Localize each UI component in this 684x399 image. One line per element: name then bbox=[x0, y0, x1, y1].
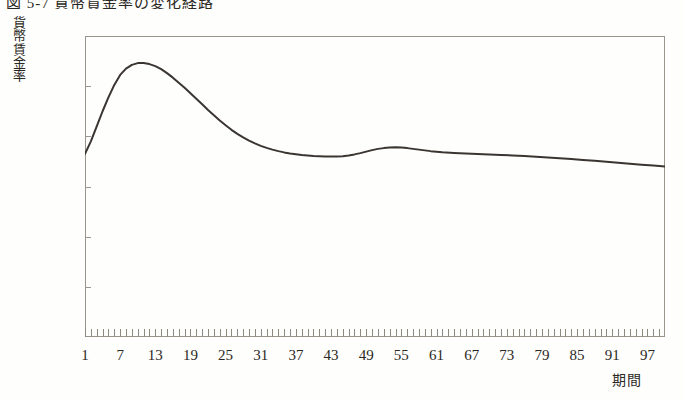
x-minor-tick bbox=[155, 329, 156, 337]
x-minor-tick bbox=[349, 329, 350, 337]
x-minor-tick bbox=[97, 329, 98, 337]
x-tick-label-25: 25 bbox=[209, 347, 243, 364]
x-minor-tick bbox=[384, 329, 385, 337]
x-minor-tick bbox=[478, 329, 479, 337]
x-tick-label-97: 97 bbox=[630, 347, 664, 364]
x-minor-tick bbox=[565, 329, 566, 337]
x-minor-tick bbox=[255, 329, 256, 337]
x-minor-tick bbox=[548, 329, 549, 337]
x-minor-tick bbox=[454, 329, 455, 337]
x-minor-tick bbox=[636, 329, 637, 337]
x-minor-tick bbox=[577, 329, 578, 337]
x-minor-tick bbox=[284, 329, 285, 337]
x-minor-tick bbox=[460, 329, 461, 337]
x-minor-tick bbox=[85, 329, 86, 337]
x-minor-tick bbox=[290, 329, 291, 337]
x-minor-tick bbox=[138, 329, 139, 337]
x-minor-tick bbox=[378, 329, 379, 337]
x-minor-tick bbox=[524, 329, 525, 337]
x-minor-tick bbox=[624, 329, 625, 337]
x-minor-tick bbox=[571, 329, 572, 337]
x-minor-tick bbox=[448, 329, 449, 337]
x-tick-label-85: 85 bbox=[560, 347, 594, 364]
x-minor-tick bbox=[114, 329, 115, 337]
y-axis-caption-char-0: 貨 bbox=[8, 16, 30, 29]
x-minor-tick bbox=[144, 329, 145, 337]
y-axis-caption-char-2: 賃 bbox=[8, 43, 30, 56]
figure-title: 図 5-7 貨幣賃金率の変化経路 bbox=[6, 0, 346, 9]
x-minor-tick bbox=[606, 329, 607, 337]
x-minor-tick bbox=[612, 329, 613, 337]
x-minor-tick bbox=[302, 329, 303, 337]
x-tick-label-43: 43 bbox=[314, 347, 348, 364]
x-minor-tick bbox=[149, 329, 150, 337]
x-minor-tick bbox=[437, 329, 438, 337]
x-minor-tick bbox=[331, 329, 332, 337]
x-tick-label-55: 55 bbox=[384, 347, 418, 364]
y-tick-mark-10 bbox=[85, 86, 91, 87]
x-tick-label-61: 61 bbox=[420, 347, 454, 364]
x-minor-tick bbox=[595, 329, 596, 337]
x-minor-tick bbox=[495, 329, 496, 337]
y-tick-mark-2 bbox=[85, 287, 91, 288]
x-tick-label-1: 1 bbox=[68, 347, 102, 364]
x-minor-tick bbox=[407, 329, 408, 337]
x-minor-tick bbox=[653, 329, 654, 337]
x-minor-tick bbox=[325, 329, 326, 337]
line-series-svg bbox=[85, 36, 665, 337]
x-minor-tick bbox=[372, 329, 373, 337]
x-minor-tick bbox=[560, 329, 561, 337]
x-minor-tick bbox=[91, 329, 92, 337]
y-tick-mark-12 bbox=[85, 36, 91, 37]
x-minor-tick bbox=[396, 329, 397, 337]
x-minor-tick bbox=[185, 329, 186, 337]
x-axis-minor-ticks bbox=[85, 329, 665, 337]
x-minor-tick bbox=[401, 329, 402, 337]
x-minor-tick bbox=[167, 329, 168, 337]
x-minor-tick bbox=[630, 329, 631, 337]
x-minor-tick bbox=[413, 329, 414, 337]
x-tick-label-79: 79 bbox=[525, 347, 559, 364]
x-tick-label-73: 73 bbox=[490, 347, 524, 364]
x-tick-label-67: 67 bbox=[455, 347, 489, 364]
x-tick-label-7: 7 bbox=[103, 347, 137, 364]
y-tick-mark-4 bbox=[85, 237, 91, 238]
x-minor-tick bbox=[202, 329, 203, 337]
x-minor-tick bbox=[296, 329, 297, 337]
x-minor-tick bbox=[519, 329, 520, 337]
x-minor-tick bbox=[226, 329, 227, 337]
x-minor-tick bbox=[267, 329, 268, 337]
x-minor-tick bbox=[354, 329, 355, 337]
x-minor-tick bbox=[190, 329, 191, 337]
wage-rate-curve bbox=[85, 63, 665, 166]
x-minor-tick bbox=[261, 329, 262, 337]
x-minor-tick bbox=[103, 329, 104, 337]
x-minor-tick bbox=[161, 329, 162, 337]
x-minor-tick bbox=[132, 329, 133, 337]
x-minor-tick bbox=[554, 329, 555, 337]
x-minor-tick bbox=[472, 329, 473, 337]
x-minor-tick bbox=[489, 329, 490, 337]
x-minor-tick bbox=[513, 329, 514, 337]
x-minor-tick bbox=[536, 329, 537, 337]
x-minor-tick bbox=[425, 329, 426, 337]
x-minor-tick bbox=[431, 329, 432, 337]
y-axis-caption-char-3: 金 bbox=[8, 56, 30, 69]
figure-container: 図 5-7 貨幣賃金率の変化経路 貨幣賃金率 期間 12108642017131… bbox=[0, 0, 684, 399]
x-minor-tick bbox=[442, 329, 443, 337]
x-minor-tick bbox=[337, 329, 338, 337]
x-minor-tick bbox=[542, 329, 543, 337]
x-minor-tick bbox=[313, 329, 314, 337]
x-minor-tick bbox=[319, 329, 320, 337]
x-minor-tick bbox=[278, 329, 279, 337]
x-minor-tick bbox=[659, 329, 660, 337]
x-minor-tick bbox=[220, 329, 221, 337]
x-minor-tick bbox=[530, 329, 531, 337]
x-tick-label-49: 49 bbox=[349, 347, 383, 364]
x-minor-tick bbox=[231, 329, 232, 337]
x-minor-tick bbox=[343, 329, 344, 337]
x-minor-tick bbox=[466, 329, 467, 337]
y-tick-mark-6 bbox=[85, 187, 91, 188]
x-minor-tick bbox=[583, 329, 584, 337]
x-tick-label-91: 91 bbox=[595, 347, 629, 364]
